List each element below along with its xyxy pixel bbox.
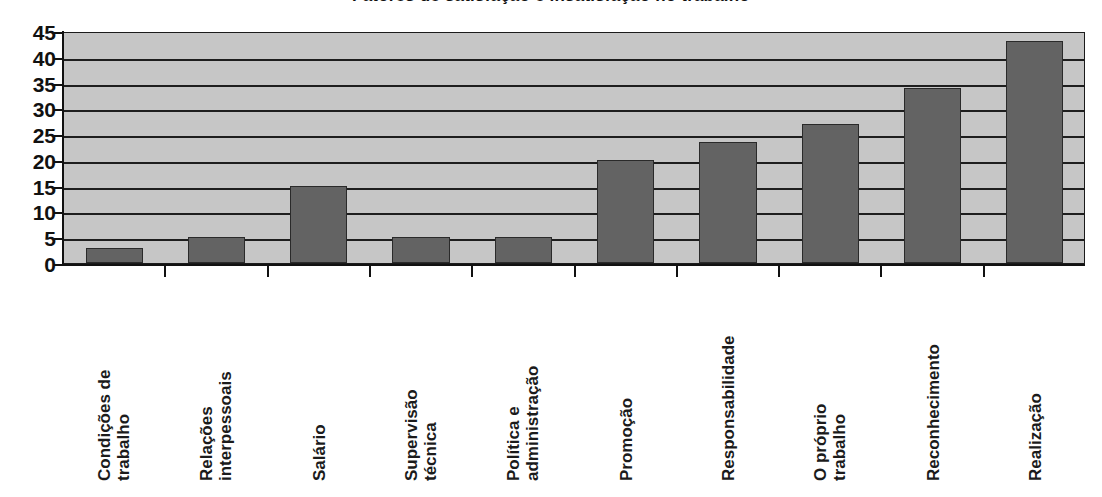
- bar: [802, 124, 859, 263]
- x-axis-category-label: Promoção: [574, 276, 676, 481]
- gridline: [63, 59, 1084, 61]
- x-axis-category-labels: Condições detrabalhoRelaçõesinterpessoai…: [62, 276, 1085, 481]
- x-axis-category-label: Salário: [267, 276, 369, 481]
- bar: [495, 237, 552, 263]
- y-axis-tick: [54, 161, 64, 163]
- y-axis-tick: [54, 58, 64, 60]
- plot-area: [62, 32, 1085, 264]
- y-axis-tick-label: 20: [8, 150, 56, 171]
- y-axis-tick-labels: 051015202530354045: [0, 32, 56, 264]
- x-axis-category-label: Relaçõesinterpessoais: [164, 276, 266, 481]
- chart-title: Fatores de satisfação e insatisfação no …: [0, 0, 1102, 6]
- y-axis-tick: [54, 109, 64, 111]
- bar: [188, 237, 245, 263]
- y-axis-tick-label: 25: [8, 125, 56, 146]
- bar: [392, 237, 449, 263]
- y-axis-tick-label: 40: [8, 47, 56, 68]
- bar: [86, 248, 143, 263]
- y-axis-tick-label: 10: [8, 202, 56, 223]
- x-axis-category-label: Responsabilidade: [676, 276, 778, 481]
- bar: [1006, 41, 1063, 263]
- y-axis-tick-label: 30: [8, 99, 56, 120]
- x-axis-category-label: O própriotrabalho: [778, 276, 880, 481]
- gridline: [63, 85, 1084, 87]
- y-axis-tick: [54, 238, 64, 240]
- x-axis-category-label: Condições detrabalho: [62, 276, 164, 481]
- x-axis-category-label: Realização: [983, 276, 1085, 481]
- bar: [290, 186, 347, 263]
- y-axis-tick-label: 5: [8, 228, 56, 249]
- x-axis-category-label: Reconhecimento: [880, 276, 982, 481]
- y-axis-tick: [54, 187, 64, 189]
- y-axis-tick-label: 0: [8, 254, 56, 275]
- y-axis-tick: [54, 135, 64, 137]
- bar: [597, 160, 654, 263]
- y-axis: [62, 31, 64, 265]
- y-axis-tick-label: 15: [8, 176, 56, 197]
- x-axis: [62, 264, 1085, 266]
- bar: [699, 142, 756, 263]
- y-axis-tick: [54, 32, 64, 34]
- x-axis-category-label: Supervisãotécnica: [369, 276, 471, 481]
- y-axis-tick: [54, 84, 64, 86]
- x-axis-category-label: Política eadministração: [471, 276, 573, 481]
- y-axis-tick-label: 35: [8, 73, 56, 94]
- y-axis-tick: [54, 212, 64, 214]
- y-axis-tick-label: 45: [8, 22, 56, 43]
- bar: [904, 88, 961, 263]
- bar-chart: Fatores de satisfação e insatisfação no …: [0, 0, 1102, 497]
